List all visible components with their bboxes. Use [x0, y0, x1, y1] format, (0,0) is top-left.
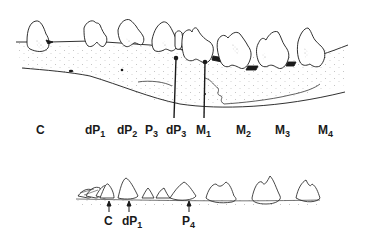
tooth-dp1	[84, 21, 107, 47]
label-c: C	[36, 124, 45, 136]
label-dp3: dP3	[166, 124, 186, 139]
label-m4: M4	[318, 124, 333, 139]
lower-label-p4: P4	[182, 215, 195, 230]
tooth-dp3	[175, 31, 183, 49]
label-p3: P3	[145, 124, 158, 139]
tooth-m3	[257, 31, 289, 68]
label-m3: M3	[275, 124, 290, 139]
lower-baseline	[76, 199, 320, 205]
label-dp1: dP1	[85, 124, 105, 139]
label-m1: M1	[196, 124, 211, 139]
lower-p4	[170, 182, 196, 200]
lower-label-dp1: dP1	[122, 215, 142, 230]
lower-dp1	[118, 178, 138, 199]
tooth-m1	[182, 28, 213, 63]
label-m2: M2	[236, 124, 251, 139]
lower-label-c: C	[104, 215, 113, 227]
label-dp2: dP2	[117, 124, 137, 139]
tooth-m4	[297, 28, 324, 67]
